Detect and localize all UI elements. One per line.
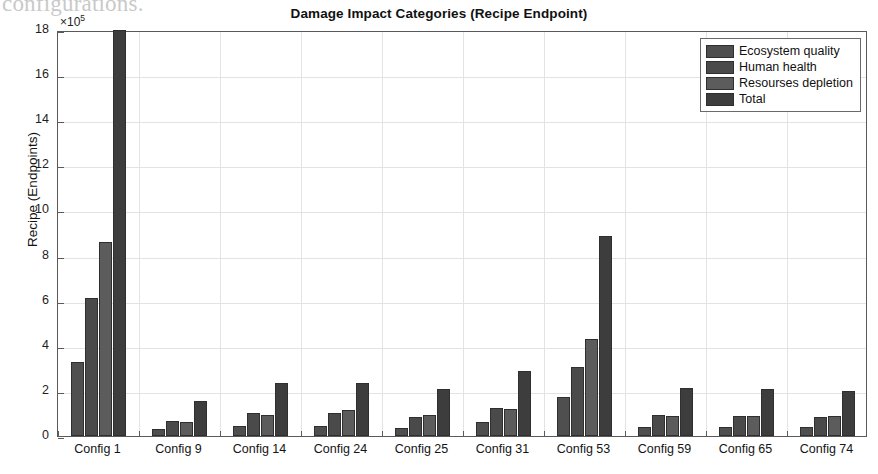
legend-label: Resourses depletion [739, 76, 853, 90]
bar [275, 383, 288, 436]
chart-legend: Ecosystem qualityHuman healthResourses d… [700, 38, 861, 112]
y-axis-tick-label: 14 [9, 112, 49, 126]
bar [666, 416, 679, 436]
bar [599, 236, 612, 436]
bar [85, 298, 98, 436]
legend-item[interactable]: Resourses depletion [706, 75, 853, 91]
bar [476, 422, 489, 436]
bar [437, 389, 450, 436]
bar [152, 429, 165, 436]
y-axis-tick [58, 438, 64, 439]
bar [719, 427, 732, 436]
y-axis-tick-label: 8 [9, 248, 49, 262]
bar-group [220, 32, 301, 436]
legend-swatch [706, 93, 734, 106]
bar [652, 415, 665, 436]
bar-group [58, 32, 139, 436]
bar [261, 415, 274, 436]
bar [71, 362, 84, 436]
bar [233, 426, 246, 436]
chart-title: Damage Impact Categories (Recipe Endpoin… [0, 6, 878, 21]
legend-swatch [706, 61, 734, 74]
y-axis-tick-label: 10 [9, 202, 49, 216]
bar [800, 427, 813, 436]
bar [99, 242, 112, 436]
bar-group [301, 32, 382, 436]
chart-figure: Damage Impact Categories (Recipe Endpoin… [0, 0, 878, 474]
x-axis-tick-label: Config 74 [767, 442, 878, 456]
bar [761, 389, 774, 436]
y-axis-exponent-power: 5 [80, 13, 85, 23]
bar [409, 417, 422, 436]
bar [571, 367, 584, 436]
legend-swatch [706, 45, 734, 58]
bar [814, 417, 827, 436]
y-axis-exponent-base: ×10 [60, 15, 80, 29]
bar [518, 371, 531, 436]
y-axis-label: Recipe (Endpoints) [25, 75, 40, 305]
bar [680, 388, 693, 436]
bar [113, 30, 126, 436]
y-axis-tick-label: 2 [9, 383, 49, 397]
y-axis-tick-label: 18 [9, 22, 49, 36]
y-axis-tick-label: 12 [9, 157, 49, 171]
legend-label: Ecosystem quality [739, 44, 840, 58]
y-axis-tick-label: 16 [9, 67, 49, 81]
bar [423, 415, 436, 436]
bar [342, 410, 355, 436]
bar [194, 401, 207, 436]
bar [585, 339, 598, 436]
y-axis-exponent: ×105 [60, 13, 85, 29]
bar [395, 428, 408, 436]
bar [733, 416, 746, 436]
bar [842, 391, 855, 436]
bar [247, 413, 260, 436]
bar-group [382, 32, 463, 436]
y-axis-tick-label: 6 [9, 293, 49, 307]
bar [747, 416, 760, 436]
bar [828, 416, 841, 436]
legend-item[interactable]: Ecosystem quality [706, 43, 853, 59]
legend-item[interactable]: Total [706, 91, 853, 107]
bar [314, 426, 327, 436]
legend-item[interactable]: Human health [706, 59, 853, 75]
legend-label: Total [739, 92, 765, 106]
legend-swatch [706, 77, 734, 90]
legend-label: Human health [739, 60, 817, 74]
bar-group [139, 32, 220, 436]
bar-group [544, 32, 625, 436]
y-axis-tick-label: 0 [9, 428, 49, 442]
bar [490, 408, 503, 436]
bar [328, 413, 341, 436]
bar [166, 421, 179, 436]
bar [557, 397, 570, 436]
y-axis-tick-label: 4 [9, 338, 49, 352]
bar-group [463, 32, 544, 436]
bar [504, 409, 517, 436]
bar [356, 383, 369, 436]
bar [180, 422, 193, 436]
bar-group [625, 32, 706, 436]
bar [638, 427, 651, 436]
